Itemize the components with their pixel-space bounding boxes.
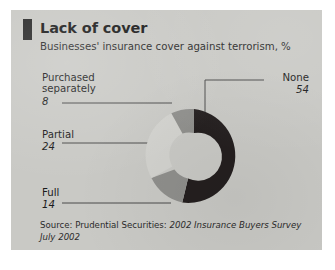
callout-label-line1: Purchased <box>42 72 96 83</box>
chart-panel: Lack of cover Businesses' insurance cove… <box>11 10 322 250</box>
callout-value: 14 <box>42 199 59 210</box>
callout-label-line2: separately <box>42 83 96 94</box>
callout-value: 54 <box>282 84 309 95</box>
source-note: Source: Prudential Securities: 2002 Insu… <box>40 220 310 243</box>
callout-label: Partial <box>42 129 74 140</box>
donut-chart: Purchased separately 8 Partial 24 Full 1… <box>11 10 322 250</box>
callout-purchased-separately: Purchased separately 8 <box>42 72 96 107</box>
callout-value: 24 <box>42 141 74 152</box>
callout-label: Full <box>42 187 59 198</box>
source-prefix: Source: Prudential Securities: <box>40 220 167 230</box>
source-date: July 2002 <box>40 232 80 242</box>
source-publication: 2002 Insurance Buyers Survey <box>169 220 301 230</box>
callout-partial: Partial 24 <box>42 129 74 153</box>
chart-figure: Lack of cover Businesses' insurance cove… <box>0 0 335 270</box>
callout-full: Full 14 <box>42 187 59 211</box>
callout-value: 8 <box>42 96 96 107</box>
callout-label: None <box>282 72 309 83</box>
callout-none: None 54 <box>282 72 309 96</box>
